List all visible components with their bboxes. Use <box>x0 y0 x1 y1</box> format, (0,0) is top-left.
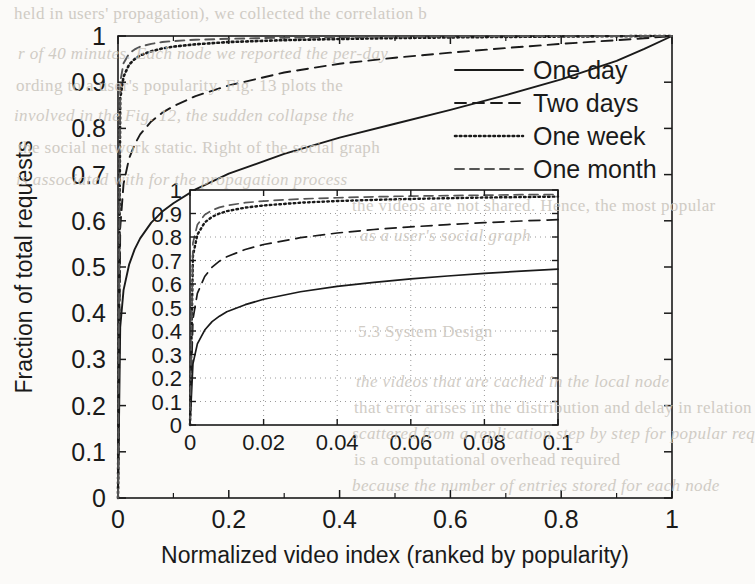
x-tick-label: 0.4 <box>322 505 357 533</box>
x-tick-label: 0 <box>111 505 125 533</box>
legend: One dayTwo daysOne weekOne month <box>455 56 657 183</box>
legend-label-one-week: One week <box>533 122 646 150</box>
y-tick-label: 0.5 <box>71 253 106 281</box>
inset-y-tick-label: 0.5 <box>151 296 182 321</box>
y-tick-label: 0.2 <box>71 392 106 420</box>
inset-x-tick-label: 0 <box>184 430 196 455</box>
bleed-through-text: that error arises in the distribution an… <box>354 398 752 418</box>
y-tick-label: 0.3 <box>71 345 106 373</box>
inset-y-tick-label: 0 <box>170 413 182 438</box>
bleed-through-text: ording to a user's popularity. Fig. 13 p… <box>16 76 343 96</box>
x-tick-label: 0.2 <box>211 505 246 533</box>
inset-y-tick-label: 0.6 <box>151 272 182 297</box>
inset-y-tick-label: 0.9 <box>151 202 182 227</box>
bleed-through-text: the videos that are cached in the local … <box>356 372 669 392</box>
inset-y-tick-label: 0.1 <box>151 390 182 415</box>
legend-label-one-day: One day <box>533 56 628 84</box>
bleed-through-text: held in users' propagation), we collecte… <box>14 4 427 24</box>
inset-x-tick-label: 0.02 <box>242 430 285 455</box>
legend-label-one-month: One month <box>533 155 657 183</box>
legend-label-two-days: Two days <box>533 89 639 117</box>
bleed-through-text: involved in the Fig. 12, the sudden coll… <box>14 106 354 126</box>
bleed-through-text: r of 40 minutes. Each node we reported t… <box>18 44 388 64</box>
bleed-through-text: scattered from a replication step by ste… <box>352 424 755 444</box>
inset-y-tick-label: 0.3 <box>151 343 182 368</box>
y-tick-label: 0 <box>92 484 106 512</box>
x-axis-label: Normalized video index (ranked by popula… <box>161 542 629 568</box>
x-tick-label: 0.8 <box>544 505 579 533</box>
y-tick-label: 0.1 <box>71 438 106 466</box>
inset-y-tick-label: 0.7 <box>151 249 182 274</box>
y-tick-label: 0.6 <box>71 207 106 235</box>
bleed-through-text: because the number of entries stored for… <box>352 476 720 496</box>
x-tick-label: 0.6 <box>433 505 468 533</box>
y-tick-label: 0.4 <box>71 299 106 327</box>
x-tick-label: 1 <box>665 505 679 533</box>
inset-y-tick-label: 0.2 <box>151 366 182 391</box>
bleed-through-text: is associated with for the propagation p… <box>16 170 348 190</box>
bleed-through-text: 5.3 System Design <box>358 322 493 342</box>
bleed-through-text: is a computational overhead required <box>354 450 620 470</box>
inset-y-tick-label: 0.4 <box>151 319 182 344</box>
bleed-through-text: the videos are not shared. Hence, the mo… <box>352 196 716 216</box>
inset-y-tick-label: 0.8 <box>151 225 182 250</box>
bleed-through-text: as a user's social graph <box>360 226 531 246</box>
bleed-through-text: the social network static. Right of the … <box>18 138 380 158</box>
